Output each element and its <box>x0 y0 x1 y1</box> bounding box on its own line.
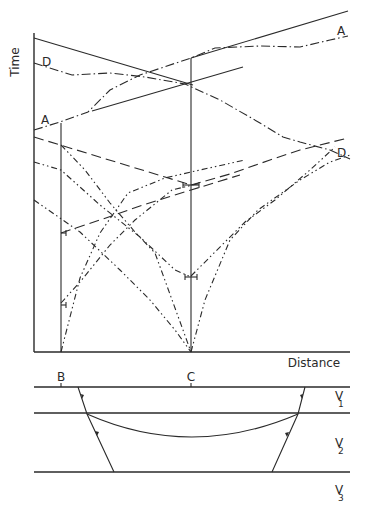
dashdot-line-to-c <box>34 162 191 277</box>
dashdot-line-b-rising-1 <box>61 160 245 352</box>
solid-line-upper-ascending <box>191 11 348 58</box>
ray-left <box>78 387 114 472</box>
label-a-left: A <box>41 113 50 127</box>
travel-time-diagram: Time Distance A A D D <box>0 0 368 517</box>
ray-right <box>272 387 305 472</box>
layer-v3-subscript: 3 <box>338 493 344 503</box>
layer-v2-subscript: 2 <box>338 446 344 456</box>
tick-marks <box>61 182 199 308</box>
label-a-right: A <box>337 24 346 38</box>
dashdot-line-b-rising-2 <box>61 183 201 303</box>
label-d-left: D <box>42 55 51 69</box>
point-c-label: C <box>187 370 195 384</box>
solid-line-top-descending <box>34 38 193 85</box>
dashed-line-right-rise <box>191 138 348 185</box>
axes: Time Distance <box>8 33 350 370</box>
dashdot-line-c-descending <box>34 200 191 352</box>
cross-section: B C V 1 V 2 V 3 <box>34 370 350 503</box>
layer-v1-subscript: 1 <box>338 399 344 409</box>
y-axis-label: Time <box>8 47 22 77</box>
dashdot-line-c-rising-2 <box>191 147 335 276</box>
curved-interface <box>87 414 298 437</box>
curve-d <box>34 63 350 159</box>
point-b-label: B <box>57 370 65 384</box>
x-axis-label: Distance <box>288 356 340 370</box>
label-d-right: D <box>337 146 346 160</box>
dashdot-line-c-rising-1 <box>191 155 350 352</box>
